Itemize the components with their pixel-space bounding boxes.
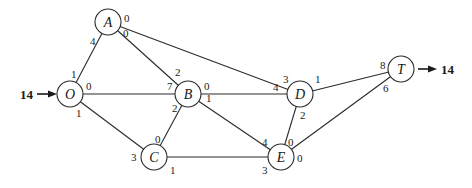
cap-A-B-at-A: 0	[123, 27, 129, 39]
node-label-D: D	[294, 87, 305, 102]
edges	[70, 22, 401, 157]
cap-A-B-at-B: 2	[175, 66, 181, 78]
edge-A-B	[108, 22, 188, 94]
node-A: A	[95, 9, 121, 35]
network-flow-diagram: 14 14 O A B C D E T 1 4 0	[0, 0, 472, 188]
cap-A-D-at-A: 0	[124, 12, 130, 24]
source-flow-label: 14	[20, 87, 34, 102]
cap-O-C-at-O: 1	[76, 107, 82, 119]
node-T: T	[388, 56, 414, 82]
cap-E-T-at-T: 6	[383, 82, 389, 94]
node-D: D	[287, 81, 313, 107]
cap-B-E-at-B: 1	[206, 92, 212, 104]
sink-arrow-head-icon	[428, 66, 437, 73]
cap-B-C-at-C: 0	[155, 133, 161, 145]
cap-E-T-at-E: 0	[297, 152, 303, 164]
edge-O-C	[70, 94, 154, 157]
cap-D-T-at-T: 8	[380, 59, 386, 71]
source-arrow-head-icon	[48, 91, 57, 98]
cap-C-E-at-E: 3	[262, 164, 268, 176]
node-label-O: O	[65, 87, 75, 102]
sink-arrow: 14	[418, 62, 455, 77]
cap-A-D-at-D: 3	[283, 73, 289, 85]
cap-B-C-at-B: 2	[172, 102, 178, 114]
node-label-B: B	[184, 87, 193, 102]
cap-O-A-at-A: 4	[90, 35, 96, 47]
cap-D-T-at-D: 1	[315, 73, 321, 85]
node-label-C: C	[149, 150, 159, 165]
cap-O-B-at-O: 0	[86, 80, 92, 92]
cap-O-B-at-B: 7	[167, 80, 173, 92]
cap-O-A-at-O: 1	[71, 68, 77, 80]
node-label-A: A	[103, 15, 113, 30]
cap-D-E-at-D: 2	[300, 109, 306, 121]
source-arrow: 14	[20, 87, 57, 102]
cap-B-E-at-E: 4	[262, 136, 268, 148]
cap-B-D-at-B: 0	[204, 80, 210, 92]
cap-D-E-at-E: 0	[288, 136, 294, 148]
node-label-E: E	[276, 150, 286, 165]
node-C: C	[141, 144, 167, 170]
sink-flow-label: 14	[441, 62, 455, 77]
cap-B-D-at-D: 4	[273, 81, 279, 93]
cap-C-E-at-C: 1	[170, 164, 176, 176]
node-B: B	[175, 81, 201, 107]
node-label-T: T	[397, 62, 406, 77]
node-O: O	[57, 81, 83, 107]
cap-O-C-at-C: 3	[131, 151, 137, 163]
